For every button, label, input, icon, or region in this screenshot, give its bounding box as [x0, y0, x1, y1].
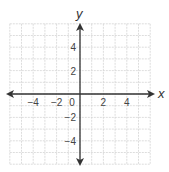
x-tick-label: 4	[124, 97, 130, 108]
x-tick-label: −4	[27, 97, 39, 108]
axes	[6, 23, 155, 166]
origin-label: 0	[69, 97, 75, 108]
coordinate-plane: x y 0 −4−224 42−2−4	[0, 0, 169, 172]
x-tick-label: 2	[101, 97, 107, 108]
y-tick-label: 4	[70, 42, 76, 53]
y-tick-label: −2	[65, 112, 77, 123]
y-tick-label: 2	[70, 66, 76, 77]
x-tick-label: −2	[51, 97, 63, 108]
x-axis-label: x	[157, 86, 165, 101]
x-tick-labels: −4−224	[27, 97, 130, 108]
y-axis-label: y	[75, 6, 84, 21]
y-tick-label: −4	[65, 136, 77, 147]
